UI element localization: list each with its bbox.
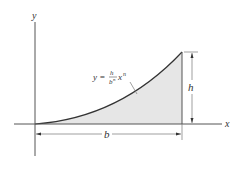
b-arrow-right — [176, 133, 181, 136]
area-under-curve-diagram: y x h b y = h b n x n — [0, 0, 248, 184]
equation-variable: x — [117, 72, 122, 82]
equation-variable-exp: n — [123, 71, 126, 77]
equation-denominator-exp: n — [113, 77, 116, 82]
curve-equation: y = h b n x n — [92, 69, 126, 86]
h-arrow-bottom — [191, 118, 194, 123]
equation-lhs: y = — [92, 72, 105, 82]
h-arrow-top — [191, 53, 194, 58]
y-axis-label: y — [31, 10, 37, 21]
h-label: h — [188, 81, 194, 93]
shaded-area — [35, 52, 182, 124]
b-label: b — [104, 128, 110, 140]
b-arrow-left — [36, 133, 41, 136]
x-axis-label: x — [224, 118, 230, 129]
equation-numerator: h — [110, 69, 114, 77]
